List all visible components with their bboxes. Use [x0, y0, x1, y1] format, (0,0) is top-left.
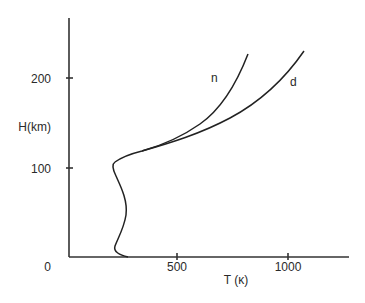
curve-label-d: d: [290, 75, 297, 89]
x-tick-label-500: 500: [167, 260, 187, 274]
curve-label-n: n: [211, 71, 218, 85]
y-axis-title: H(km): [18, 120, 51, 134]
x-tick-label-1000: 1000: [275, 260, 302, 274]
y-tick-label-200: 200: [31, 72, 51, 86]
y-tick-label-0: 0: [44, 260, 51, 274]
y-tick-label-100: 100: [31, 162, 51, 176]
curve-n: [113, 54, 248, 257]
chart: 200 100 0 500 1000 H(km) T (κ) n d: [0, 0, 365, 303]
x-axis-title: T (κ): [224, 273, 248, 287]
